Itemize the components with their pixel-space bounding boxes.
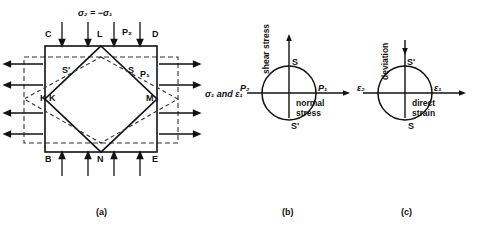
c-point-top-s-prime: S': [407, 58, 415, 67]
midpoint-label-s: S: [128, 66, 134, 75]
figure-root: [0, 0, 485, 240]
b-vertical-arrowhead: [286, 34, 292, 41]
corner-label-d: D: [152, 30, 159, 39]
caption-c: (c): [401, 208, 412, 217]
midpoint-label-s-prime: S': [62, 66, 70, 75]
c-vertical-arrowhead: [402, 48, 408, 55]
force-label-p2: P₂: [122, 28, 132, 37]
b-point-left-p2: P₂: [240, 84, 249, 93]
stress-label-top: σ₂ = −σ₁: [78, 9, 112, 18]
c-point-left-eps2: ε₂: [357, 84, 365, 93]
b-horizontal-axis-label: normal stress: [296, 99, 346, 119]
deformed-vertex-k: K: [40, 94, 47, 103]
b-point-top-s: S: [292, 58, 298, 67]
right-load-arrows: [159, 61, 200, 137]
c-point-right-eps1: ε₁: [434, 84, 441, 93]
inscribed-diamond-solid: [45, 46, 157, 152]
c-vertical-axis-label: deviation: [381, 43, 390, 80]
b-vertical-axis-label: shear stress: [262, 24, 271, 74]
diamond-vertex-l: L: [97, 30, 103, 39]
b-horizontal-arrowhead: [343, 90, 350, 96]
stress-label-right: σ₁ and ε₁: [205, 90, 243, 99]
corner-label-e: E: [152, 155, 158, 164]
panel-a-graphics: [4, 22, 200, 176]
c-point-bottom-s: S: [408, 122, 414, 131]
diamond-vertex-m: M: [146, 94, 154, 103]
b-point-right-p1: P₁: [318, 84, 327, 93]
caption-a: (a): [96, 208, 107, 217]
b-point-bottom-s-prime: S': [291, 122, 299, 131]
c-horizontal-arrowhead: [459, 90, 466, 96]
diamond-vertex-n: N: [97, 155, 104, 164]
force-label-p1: P₁: [140, 70, 150, 79]
corner-label-c: C: [45, 30, 52, 39]
diamond-vertex-k: K: [49, 94, 56, 103]
caption-b: (b): [282, 208, 294, 217]
c-horizontal-axis-label: direct strain: [412, 99, 458, 119]
corner-label-b: B: [45, 155, 52, 164]
outer-square: [45, 46, 157, 152]
